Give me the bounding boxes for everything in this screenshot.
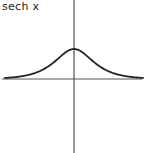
plot-area: [0, 0, 144, 153]
